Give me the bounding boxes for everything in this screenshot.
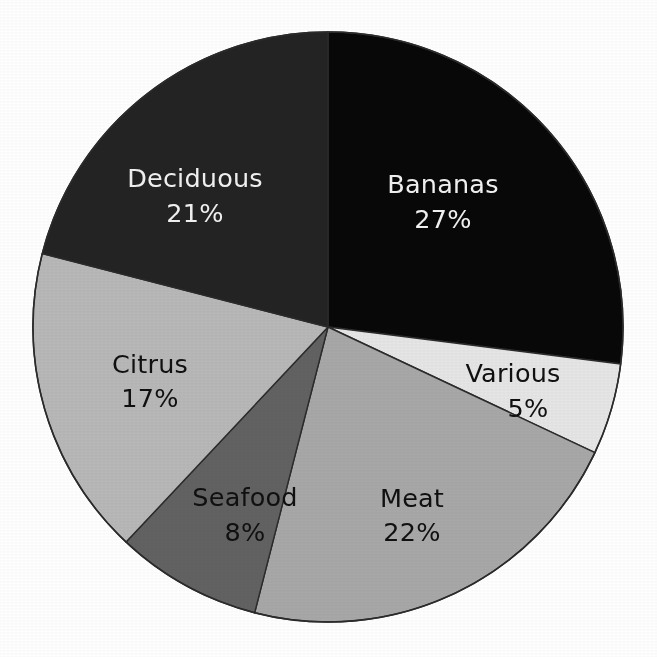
slice-label-meat: Meat [380,483,444,513]
slice-label-deciduous: Deciduous [127,163,263,193]
slice-value-meat: 22% [383,517,440,547]
slice-value-citrus: 17% [121,383,178,413]
slice-value-bananas: 27% [414,204,471,234]
pie-chart: Bananas27%Various5%Meat22%Seafood8%Citru… [0,0,657,657]
slice-label-seafood: Seafood [192,482,297,512]
slice-value-various: 5% [508,393,549,423]
slice-label-bananas: Bananas [387,169,498,199]
slice-value-seafood: 8% [225,517,266,547]
pie-chart-canvas: Bananas27%Various5%Meat22%Seafood8%Citru… [0,0,657,657]
pie-slices-group [33,32,623,622]
slice-label-citrus: Citrus [112,349,188,379]
slice-label-various: Various [465,358,560,388]
slice-value-deciduous: 21% [166,198,223,228]
